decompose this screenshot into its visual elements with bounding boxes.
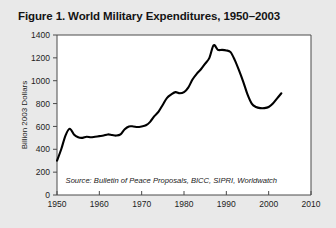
figure-container: Figure 1. World Military Expenditures, 1… bbox=[0, 0, 336, 228]
x-tick-label: 1950 bbox=[48, 199, 67, 209]
plot-background bbox=[57, 35, 311, 195]
y-tick-label: 600 bbox=[36, 122, 50, 132]
x-tick-label: 1970 bbox=[132, 199, 151, 209]
x-tick-label: 1980 bbox=[175, 199, 194, 209]
y-tick-label: 1000 bbox=[31, 76, 50, 86]
x-tick-label: 1960 bbox=[90, 199, 109, 209]
chart-area: 0200400600800100012001400 19501960197019… bbox=[0, 24, 336, 224]
page-title: Figure 1. World Military Expenditures, 1… bbox=[18, 10, 328, 22]
y-tick-label: 1200 bbox=[31, 53, 50, 63]
x-tick-label: 2010 bbox=[302, 199, 321, 209]
x-tick-label: 2000 bbox=[259, 199, 278, 209]
y-axis-title: Billion 2003 Dollars bbox=[20, 81, 29, 149]
y-tick-label: 200 bbox=[36, 167, 50, 177]
y-tick-label: 1400 bbox=[31, 30, 50, 40]
x-tick-label: 1990 bbox=[217, 199, 236, 209]
source-note: Source: Bulletin of Peace Proposals, BIC… bbox=[66, 176, 277, 185]
line-chart: 0200400600800100012001400 19501960197019… bbox=[0, 24, 336, 224]
y-axis-ticks: 0200400600800100012001400 bbox=[31, 30, 57, 200]
y-tick-label: 800 bbox=[36, 99, 50, 109]
y-tick-label: 400 bbox=[36, 144, 50, 154]
